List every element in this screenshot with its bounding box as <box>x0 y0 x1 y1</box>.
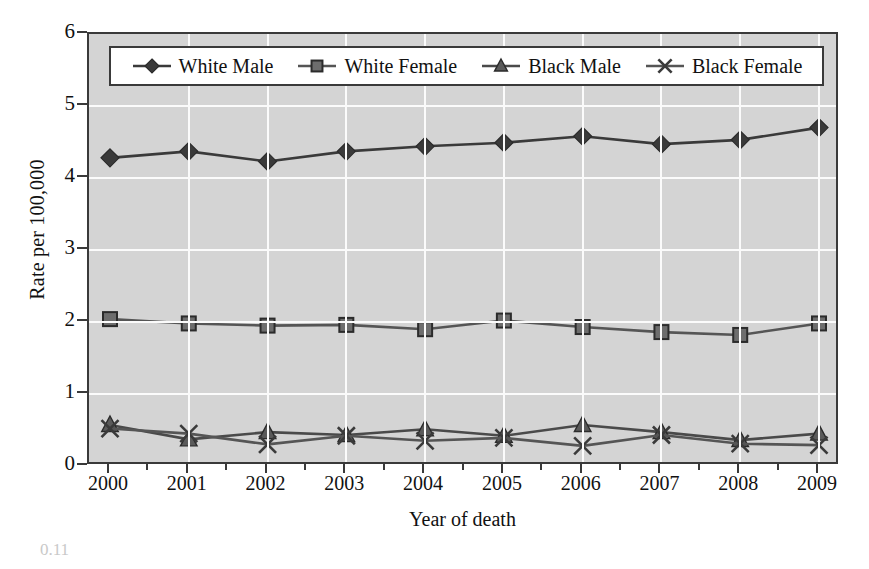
x-axis-minor-tick-mark <box>146 464 148 470</box>
legend-label: Black Female <box>692 56 803 76</box>
x-axis-tick-mark <box>107 464 109 473</box>
y-axis-tick-mark <box>77 463 87 465</box>
vertical-gridline <box>660 34 662 462</box>
legend-marker-x-icon <box>644 57 686 75</box>
x-axis-tick-mark <box>422 464 424 473</box>
x-axis-tick-label: 2007 <box>619 472 699 495</box>
vertical-gridline <box>267 34 269 462</box>
scan-artifact-text: 0.11 <box>40 540 69 560</box>
plot-area <box>87 32 838 464</box>
x-axis-tick-label: 2008 <box>698 472 778 495</box>
y-axis-tick-mark <box>77 319 87 321</box>
x-axis-tick-mark <box>265 464 267 473</box>
x-axis-minor-tick-mark <box>698 464 700 470</box>
legend-label: Black Male <box>528 56 621 76</box>
horizontal-gridline <box>89 177 836 179</box>
vertical-gridline <box>582 34 584 462</box>
horizontal-gridline <box>89 321 836 323</box>
x-axis-minor-tick-mark <box>383 464 385 470</box>
vertical-gridline <box>503 34 505 462</box>
vertical-gridline <box>424 34 426 462</box>
x-axis-minor-tick-mark <box>619 464 621 470</box>
vertical-gridline <box>345 34 347 462</box>
x-axis-minor-tick-mark <box>540 464 542 470</box>
series-white-male <box>101 119 828 171</box>
x-axis-minor-tick-mark <box>304 464 306 470</box>
horizontal-gridline <box>89 393 836 395</box>
x-axis-minor-tick-mark <box>462 464 464 470</box>
legend-label: White Male <box>179 56 274 76</box>
series-white-female <box>103 312 826 342</box>
legend-item-white-female[interactable]: White Female <box>296 56 457 76</box>
y-axis-tick-mark <box>77 103 87 105</box>
y-axis-tick-mark <box>77 175 87 177</box>
series-line <box>110 128 819 162</box>
x-axis-tick-label: 2009 <box>777 472 857 495</box>
chart-figure: Rate per 100,000 01234562000200120022003… <box>0 0 869 569</box>
x-axis-tick-label: 2000 <box>68 472 148 495</box>
y-axis-tick-mark <box>77 247 87 249</box>
legend-marker-diamond-icon <box>131 57 173 75</box>
y-axis-tick-mark <box>77 391 87 393</box>
y-axis-tick-label: 6 <box>35 19 75 44</box>
legend-marker-triangle-icon <box>480 57 522 75</box>
x-axis-tick-label: 2006 <box>541 472 621 495</box>
horizontal-gridline <box>89 249 836 251</box>
legend-marker-square-icon <box>296 57 338 75</box>
x-axis-tick-label: 2001 <box>147 472 227 495</box>
y-axis-tick-label: 2 <box>35 307 75 332</box>
legend-item-black-female[interactable]: Black Female <box>644 56 803 76</box>
legend-item-white-male[interactable]: White Male <box>131 56 274 76</box>
x-axis-tick-mark <box>737 464 739 473</box>
data-point-marker <box>101 149 119 167</box>
y-axis-tick-label: 1 <box>35 379 75 404</box>
horizontal-gridline <box>89 105 836 107</box>
vertical-gridline <box>818 34 820 462</box>
y-axis-tick-label: 3 <box>35 235 75 260</box>
vertical-gridline <box>739 34 741 462</box>
x-axis-tick-label: 2005 <box>462 472 542 495</box>
legend-label: White Female <box>344 56 457 76</box>
legend-item-black-male[interactable]: Black Male <box>480 56 621 76</box>
x-axis-tick-mark <box>658 464 660 473</box>
chart-legend: White MaleWhite FemaleBlack MaleBlack Fe… <box>109 46 824 86</box>
x-axis-minor-tick-mark <box>777 464 779 470</box>
x-axis-tick-mark <box>580 464 582 473</box>
x-axis-tick-mark <box>186 464 188 473</box>
x-axis-title: Year of death <box>87 508 838 531</box>
x-axis-tick-label: 2003 <box>304 472 384 495</box>
x-axis-tick-mark <box>501 464 503 473</box>
x-axis-minor-tick-mark <box>225 464 227 470</box>
y-axis-tick-label: 5 <box>35 91 75 116</box>
y-axis-tick-mark <box>77 31 87 33</box>
vertical-gridline <box>188 34 190 462</box>
x-axis-tick-label: 2004 <box>383 472 463 495</box>
x-axis-tick-label: 2002 <box>226 472 306 495</box>
x-axis-tick-mark <box>343 464 345 473</box>
x-axis-tick-mark <box>816 464 818 473</box>
y-axis-tick-label: 4 <box>35 163 75 188</box>
data-point-marker <box>103 312 117 326</box>
